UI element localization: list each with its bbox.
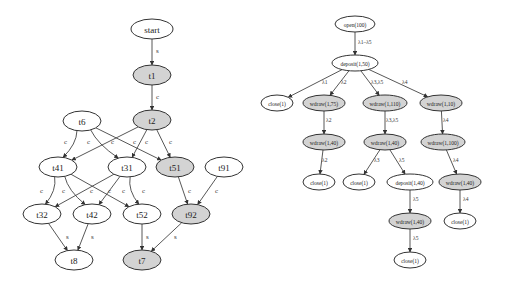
edge-label: s: [174, 233, 177, 241]
node-label: deposit(1,50): [340, 61, 369, 68]
node-label: wdraw(1,75): [310, 101, 338, 108]
node-r_wd110: wdraw(1,110): [363, 95, 407, 111]
edge-label: c: [215, 187, 218, 195]
edge-label: λ3: [374, 157, 380, 163]
edge-r_wd40d-to-r_close_e: λ5: [410, 229, 419, 252]
right-graph-nodes: open(100)deposit(1,50)close(1)wdraw(1,75…: [261, 16, 481, 268]
node-r_close_e: close(1): [394, 252, 426, 268]
edge-t31-to-t52: c: [130, 177, 145, 204]
node-label: wdraw(1,40): [446, 180, 474, 187]
node-r_wd75: wdraw(1,75): [303, 95, 345, 111]
edge-r_dep1-to-r_close_a: λ1: [288, 70, 342, 98]
node-r_wd10: wdraw(1,10): [420, 95, 462, 111]
edge-label: c: [40, 187, 43, 195]
node-label: t42: [86, 210, 98, 220]
edge-label: s: [66, 233, 69, 241]
edge-label: λ1–λ5: [358, 39, 372, 45]
node-label: wdraw(1,100): [427, 140, 458, 147]
node-label: t7: [138, 256, 146, 266]
node-label: t92: [185, 210, 197, 220]
edge-t91-to-t92: c: [198, 176, 219, 204]
node-t32: t32: [23, 204, 61, 224]
edge-label: λ4: [402, 79, 408, 85]
node-t42: t42: [73, 204, 111, 224]
edge-t32-to-t8: s: [49, 223, 69, 250]
edge-r_wd40c-to-r_close_d: λ4: [460, 190, 469, 213]
edge-r_wd40a-to-r_close_b: λ2: [320, 150, 328, 174]
node-label: t6: [78, 117, 86, 127]
edge-label: c: [169, 138, 172, 146]
edge-t6-to-t51: c: [96, 128, 161, 160]
edge-r_wd100-to-r_wd40c: λ4: [446, 150, 458, 174]
node-r_open: open(100): [335, 16, 375, 32]
edge-t51-to-t92: c: [178, 177, 191, 204]
edge-label: c: [188, 187, 191, 195]
node-label: t2: [148, 116, 155, 126]
edge-r_dep40-to-r_wd40d: λ5: [410, 190, 419, 213]
node-label: wdraw(1,110): [370, 101, 401, 108]
node-r_wd40c: wdraw(1,40): [439, 174, 481, 190]
node-r_wd40b: wdraw(1,40): [364, 134, 406, 150]
edge-label: c: [90, 187, 93, 195]
node-r_close_d: close(1): [444, 213, 476, 229]
edge-r_open-to-r_dep1: λ1–λ5: [355, 32, 372, 55]
node-label: t52: [136, 210, 148, 220]
left-graph: scccccccccccccccssss startt1t2t6t41t31t5…: [23, 19, 243, 270]
node-r_dep40: deposit(1,40): [387, 174, 433, 190]
edge-t41-to-t52: c: [71, 174, 129, 206]
right-graph: λ1–λ5λ1λ2λ3,λ5λ4λ2λ3,λ5λ4λ2λ3λ5λ4λ5λ4λ5 …: [261, 16, 481, 268]
node-t92: t92: [172, 204, 210, 224]
node-start: start: [131, 19, 173, 39]
edge-t92-to-t7: s: [151, 223, 181, 252]
edge-label: c: [111, 138, 114, 146]
node-label: open(100): [344, 22, 367, 29]
node-label: t31: [121, 163, 133, 173]
node-t41: t41: [39, 157, 77, 177]
edge-label: c: [145, 138, 148, 146]
edge-label: c: [142, 187, 145, 195]
node-t2: t2: [133, 110, 171, 130]
edge-label: c: [87, 138, 90, 146]
edge-t52-to-t7: s: [142, 224, 149, 250]
edge-label: c: [133, 138, 136, 146]
edge-label: λ5: [399, 157, 405, 163]
node-label: t41: [52, 163, 64, 173]
edge-label: λ5: [413, 196, 419, 202]
node-label: close(1): [310, 180, 328, 187]
node-t1: t1: [133, 65, 171, 85]
node-r_wd100: wdraw(1,100): [421, 134, 465, 150]
node-t52: t52: [123, 204, 161, 224]
node-t91: t91: [205, 157, 243, 177]
edge-r_wd10-to-r_wd100: λ4: [441, 111, 448, 134]
node-label: t91: [218, 163, 230, 173]
node-label: close(1): [268, 101, 286, 108]
edge-label: c: [64, 138, 67, 146]
edge-label: s: [146, 233, 149, 241]
node-r_close_a: close(1): [261, 95, 293, 111]
node-label: close(1): [451, 219, 469, 226]
edge-r_wd75-to-r_wd40a: λ2: [324, 111, 332, 134]
node-label: t8: [70, 256, 78, 266]
edge-r_wd110-to-r_wd40b: λ3,λ5: [385, 111, 398, 134]
edge-label: λ4: [443, 117, 449, 123]
edge-r_wd40b-to-r_dep40: λ5: [390, 150, 405, 174]
diagram-canvas: scccccccccccccccssss startt1t2t6t41t31t5…: [0, 0, 507, 285]
edge-t1-to-t2: c: [152, 85, 159, 110]
edge-t2-to-t51: c: [157, 130, 172, 158]
node-label: deposit(1,40): [395, 180, 424, 187]
node-r_dep1: deposit(1,50): [332, 55, 378, 71]
edge-label: λ4: [463, 196, 469, 202]
node-label: t32: [36, 210, 48, 220]
node-label: wdraw(1,40): [371, 140, 399, 147]
edge-t42-to-t8: s: [78, 224, 94, 250]
node-label: t51: [169, 163, 181, 173]
edge-label: s: [156, 47, 159, 55]
edge-t41-to-t32: c: [40, 177, 55, 204]
node-t51: t51: [156, 157, 194, 177]
node-t31: t31: [108, 157, 146, 177]
node-t7: t7: [123, 250, 161, 270]
node-label: t1: [148, 71, 155, 81]
node-label: wdraw(1,10): [427, 101, 455, 108]
node-r_close_c: close(1): [343, 174, 375, 190]
edge-r_wd40b-to-r_close_c: λ3: [364, 150, 380, 175]
